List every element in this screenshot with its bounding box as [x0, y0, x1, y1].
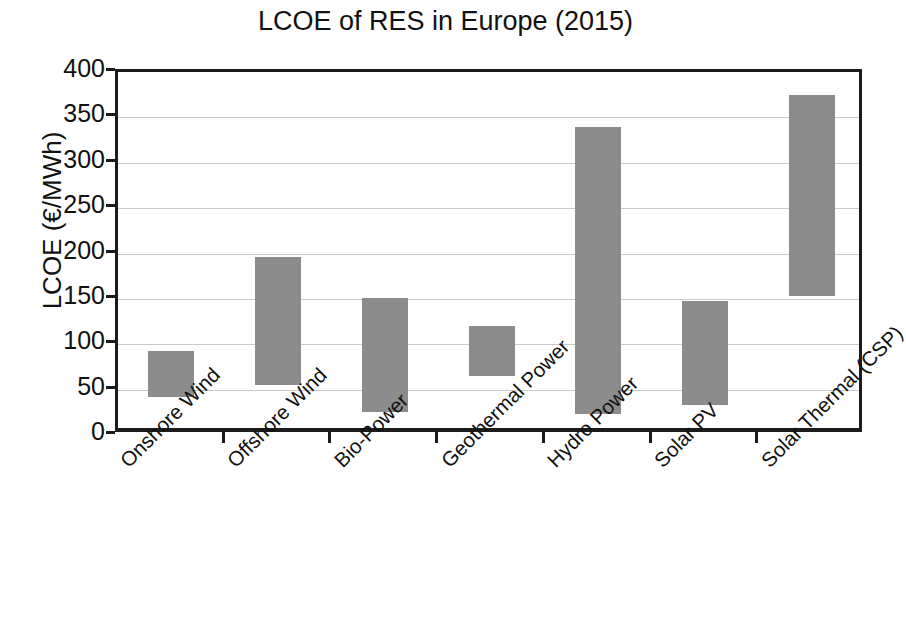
y-tick-label: 300 [0, 147, 105, 172]
y-tick-label: 0 [0, 419, 105, 444]
bar [575, 127, 621, 414]
x-tick-mark [755, 432, 758, 443]
y-tick-mark [106, 68, 115, 71]
x-tick-mark [435, 432, 438, 443]
y-tick-label: 100 [0, 328, 105, 353]
plot-area [115, 69, 862, 432]
bar [255, 257, 301, 385]
y-tick-label: 150 [0, 283, 105, 308]
y-tick-mark [106, 340, 115, 343]
y-tick-label: 350 [0, 101, 105, 126]
y-tick-label: 50 [0, 374, 105, 399]
chart-title: LCOE of RES in Europe (2015) [0, 6, 891, 37]
y-tick-label: 200 [0, 238, 105, 263]
y-tick-mark [106, 113, 115, 116]
y-tick-mark [106, 204, 115, 207]
bar [682, 301, 728, 405]
y-tick-mark [106, 250, 115, 253]
y-tick-mark [106, 386, 115, 389]
y-axis-tick-labels: 050100150200250300350400 [0, 0, 105, 628]
y-tick-mark [106, 159, 115, 162]
bar [469, 326, 515, 376]
x-tick-mark [542, 432, 545, 443]
x-tick-mark [222, 432, 225, 443]
x-tick-mark [649, 432, 652, 443]
bar [789, 95, 835, 296]
x-tick-mark [328, 432, 331, 443]
y-tick-label: 250 [0, 192, 105, 217]
y-tick-label: 400 [0, 56, 105, 81]
bar-series [118, 72, 859, 428]
y-tick-mark [106, 431, 115, 434]
y-tick-mark [106, 295, 115, 298]
